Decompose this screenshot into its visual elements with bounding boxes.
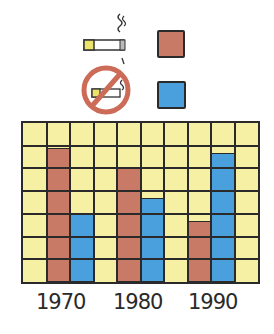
legend-swatch-smokers (157, 30, 185, 58)
x-tick-label: 1990 (188, 290, 237, 314)
grid-line-horizontal (23, 145, 258, 147)
chart-plot-area (21, 121, 260, 284)
x-tick-label: 1970 (36, 290, 85, 314)
bar-1980-smokers (117, 168, 141, 282)
x-tick-label: 1980 (113, 290, 162, 314)
no-smoking-icon (78, 56, 138, 116)
legend-swatch-non-smokers (157, 81, 186, 109)
lit-cigarette-icon (82, 12, 132, 57)
grid-line-horizontal (23, 236, 258, 238)
bar-1970-non-smokers (70, 214, 94, 282)
grid-line-horizontal (23, 213, 258, 215)
bar-1980-non-smokers (141, 198, 165, 282)
grid-line-horizontal (23, 190, 258, 192)
grid-line-horizontal (23, 258, 258, 260)
bar-1990-non-smokers (211, 153, 235, 282)
bar-1990-smokers (188, 221, 212, 282)
grid-line-horizontal (23, 167, 258, 169)
